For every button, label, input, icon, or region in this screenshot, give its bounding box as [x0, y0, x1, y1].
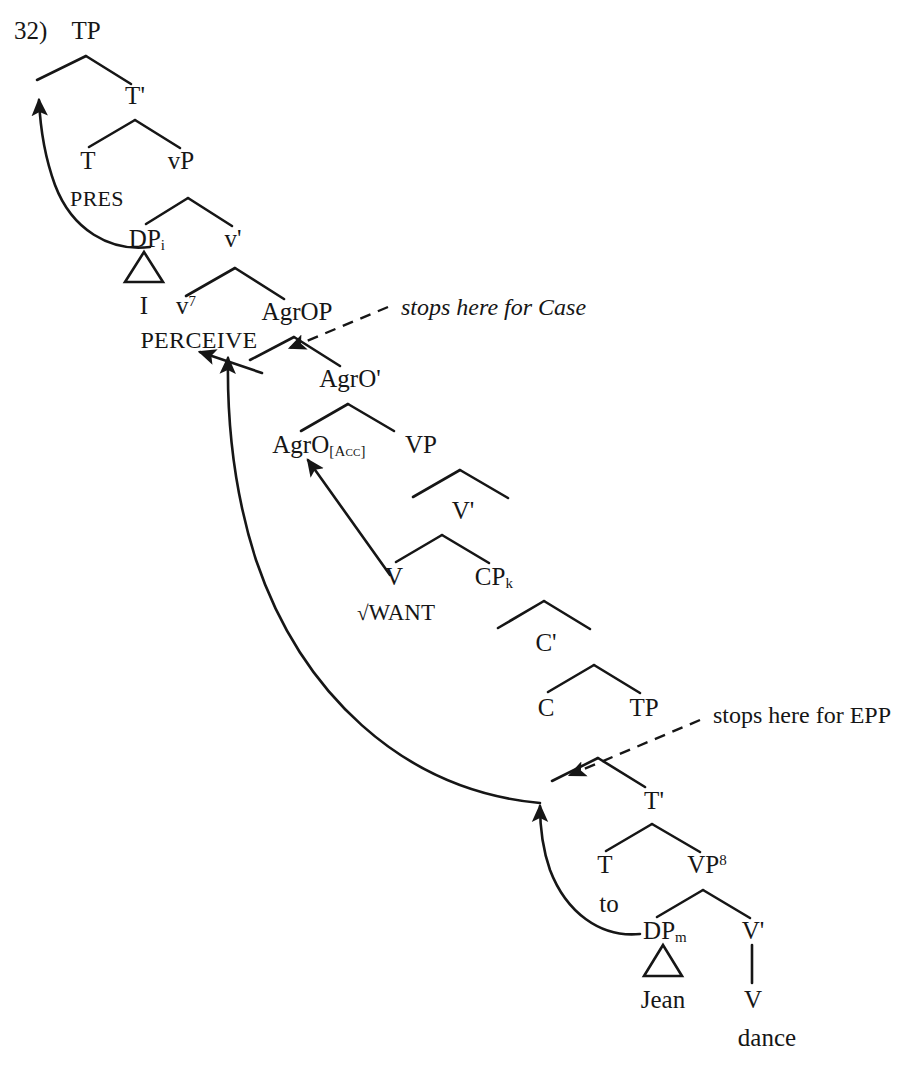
node-v-small-head: v7 — [176, 293, 196, 318]
node-tp-lower: TP — [629, 695, 658, 720]
node-vp-superscript: VP8 — [687, 852, 726, 877]
node-c-bar: C' — [535, 630, 556, 655]
node-v-lower: V — [744, 987, 762, 1012]
node-dp-i-text: DP — [129, 225, 161, 252]
arrow-specagrop-to-perceive — [200, 352, 262, 373]
node-c-head: C — [538, 695, 555, 720]
tree-branches-and-arrows — [0, 0, 921, 1067]
node-agro-case-feature: [Acc] — [329, 443, 366, 459]
node-dp-m: DPm — [643, 918, 687, 945]
annotation-stops-here-for-epp: stops here for EPP — [713, 703, 891, 727]
node-tp-root: TP — [71, 18, 100, 43]
node-t-bar-lower: T' — [644, 788, 664, 813]
node-v-bar-lower: V' — [742, 918, 765, 943]
node-v-bar-big: V' — [452, 498, 475, 523]
node-dp-i-index: i — [161, 237, 165, 253]
node-t-top: T — [80, 148, 95, 173]
node-dp-m-text: DP — [643, 917, 675, 944]
node-t-lower: T — [597, 852, 612, 877]
node-vp-big: VP — [405, 432, 437, 457]
node-v-small-head-footnote: 7 — [189, 293, 197, 309]
node-dp-m-index: m — [675, 929, 687, 945]
terminal-jean: Jean — [641, 987, 685, 1012]
node-vp-small: vP — [168, 148, 194, 173]
terminal-to: to — [599, 891, 618, 916]
node-agrop: AgrOP — [262, 299, 333, 324]
node-dp-i: DPi — [129, 226, 165, 253]
node-cp-k: CPk — [475, 564, 513, 591]
terminal-pres: PRES — [70, 188, 124, 210]
node-agro-head: AgrO[Acc] — [272, 432, 365, 459]
arrow-dashed-epp — [570, 720, 700, 775]
node-v-bar-small: v' — [224, 226, 241, 251]
terminal-perceive: PERCEIVE — [140, 328, 257, 352]
syntax-tree-figure: 32) TP T' T PRES vP DPi v' I v7 PERCEIVE… — [0, 0, 921, 1067]
terminal-want-text: WANT — [369, 600, 435, 625]
node-agro-head-text: AgrO — [272, 431, 329, 458]
node-vp-footnote: 8 — [719, 852, 727, 868]
arrow-v-to-agro — [308, 460, 390, 575]
terminal-want: √WANT — [357, 601, 435, 624]
tree-branch-lines — [37, 56, 752, 983]
arrow-dpm-to-spec-tp-lower — [540, 806, 640, 934]
example-number-label: 32) — [14, 18, 47, 43]
node-v-big: V — [385, 564, 403, 589]
node-v-small-head-text: v — [176, 292, 189, 319]
node-t-bar-top: T' — [125, 83, 145, 108]
terminal-i: I — [140, 293, 148, 318]
node-cp-k-index: k — [505, 575, 513, 591]
node-agro-bar: AgrO' — [319, 366, 380, 391]
node-vp-superscript-text: VP — [687, 851, 719, 878]
radical-sign: √ — [357, 601, 369, 625]
terminal-dance: dance — [738, 1025, 796, 1050]
node-cp-k-text: CP — [475, 563, 506, 590]
annotation-stops-here-for-case: stops here for Case — [401, 295, 586, 319]
